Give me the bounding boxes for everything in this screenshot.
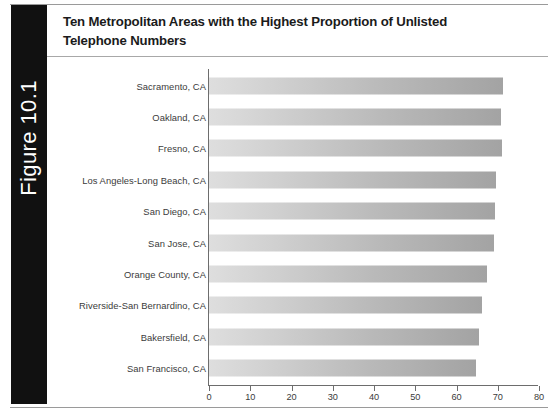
bar-fill bbox=[209, 109, 501, 126]
x-axis-tick-label: 40 bbox=[369, 392, 379, 402]
bottom-rule bbox=[10, 407, 548, 408]
bar-category-label: San Diego, CA bbox=[143, 206, 206, 217]
x-axis-tick bbox=[498, 386, 499, 391]
x-axis-tick bbox=[415, 386, 416, 391]
bar-track bbox=[209, 266, 487, 283]
bar-fill bbox=[209, 266, 487, 283]
x-axis-tick bbox=[374, 386, 375, 391]
bar-fill bbox=[209, 328, 479, 345]
figure-container: Figure 10.1 Ten Metropolitan Areas with … bbox=[0, 0, 551, 419]
x-axis-tick bbox=[457, 386, 458, 391]
y-axis-line bbox=[208, 69, 209, 386]
bar-track bbox=[209, 360, 476, 377]
figure-number-label: Figure 10.1 bbox=[16, 80, 42, 196]
plot-area: Sacramento, CAOakland, CAFresno, CALos A… bbox=[47, 60, 548, 404]
bar-fill bbox=[209, 203, 495, 220]
bar-fill bbox=[209, 77, 503, 94]
bar-row: San Jose, CA bbox=[47, 227, 548, 258]
bar-track bbox=[209, 297, 482, 314]
x-axis-line bbox=[208, 385, 538, 386]
figure-number-tab: Figure 10.1 bbox=[11, 5, 47, 404]
x-axis-tick bbox=[250, 386, 251, 391]
x-axis-tick-label: 50 bbox=[410, 392, 420, 402]
bar-track bbox=[209, 109, 501, 126]
x-axis-tick-label: 60 bbox=[451, 392, 461, 402]
x-axis-tick bbox=[209, 386, 210, 391]
bar-fill bbox=[209, 297, 482, 314]
bar-track bbox=[209, 77, 503, 94]
bar-row: Riverside-San Bernardino, CA bbox=[47, 290, 548, 321]
bar-row: Orange County, CA bbox=[47, 258, 548, 289]
bar-row: Sacramento, CA bbox=[47, 70, 548, 101]
x-axis-tick bbox=[292, 386, 293, 391]
bar-row: San Francisco, CA bbox=[47, 353, 548, 384]
bar-row: San Diego, CA bbox=[47, 196, 548, 227]
bar-fill bbox=[209, 360, 476, 377]
bar-row: Fresno, CA bbox=[47, 133, 548, 164]
bar-category-label: Orange County, CA bbox=[124, 269, 206, 280]
chart-title: Ten Metropolitan Areas with the Highest … bbox=[63, 13, 503, 50]
bar-track bbox=[209, 203, 495, 220]
bar-category-label: Oakland, CA bbox=[152, 112, 206, 123]
x-axis-tick-label: 70 bbox=[493, 392, 503, 402]
bar-fill bbox=[209, 140, 502, 157]
bar-category-label: Bakersfield, CA bbox=[141, 331, 206, 342]
x-axis-tick-label: 0 bbox=[206, 392, 211, 402]
figure-body: Ten Metropolitan Areas with the Highest … bbox=[47, 5, 548, 404]
title-divider bbox=[47, 56, 548, 57]
bar-track bbox=[209, 234, 494, 251]
x-axis-tick bbox=[539, 386, 540, 391]
bar-category-label: Los Angeles-Long Beach, CA bbox=[82, 174, 206, 185]
bar-fill bbox=[209, 234, 494, 251]
bar-category-label: Riverside-San Bernardino, CA bbox=[79, 300, 206, 311]
bar-category-label: San Francisco, CA bbox=[127, 363, 206, 374]
x-axis-tick-label: 10 bbox=[245, 392, 255, 402]
bar-category-label: San Jose, CA bbox=[148, 237, 206, 248]
bar-track bbox=[209, 171, 496, 188]
x-axis-tick-label: 30 bbox=[328, 392, 338, 402]
bar-track bbox=[209, 140, 502, 157]
bar-track bbox=[209, 328, 479, 345]
bar-fill bbox=[209, 171, 496, 188]
x-axis-tick-label: 20 bbox=[286, 392, 296, 402]
x-axis-tick-label: 80 bbox=[534, 392, 544, 402]
bar-row: Oakland, CA bbox=[47, 101, 548, 132]
bar-category-label: Fresno, CA bbox=[158, 143, 206, 154]
bar-category-label: Sacramento, CA bbox=[137, 80, 206, 91]
x-axis-tick bbox=[333, 386, 334, 391]
bar-row: Bakersfield, CA bbox=[47, 321, 548, 352]
bar-row: Los Angeles-Long Beach, CA bbox=[47, 164, 548, 195]
